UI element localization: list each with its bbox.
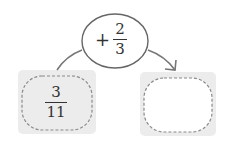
result-answer-field[interactable]	[150, 84, 206, 126]
start-denominator: 11	[45, 105, 67, 120]
operation-fraction: 2 3	[113, 22, 127, 57]
operation-denominator: 3	[113, 42, 127, 57]
operation-numerator: 2	[113, 22, 127, 37]
start-numerator: 3	[45, 85, 67, 100]
start-fraction: 3 11	[45, 85, 67, 120]
connector-arc-left	[57, 50, 82, 70]
operation-operator: +	[95, 29, 110, 50]
connector-arc-right	[148, 50, 175, 70]
